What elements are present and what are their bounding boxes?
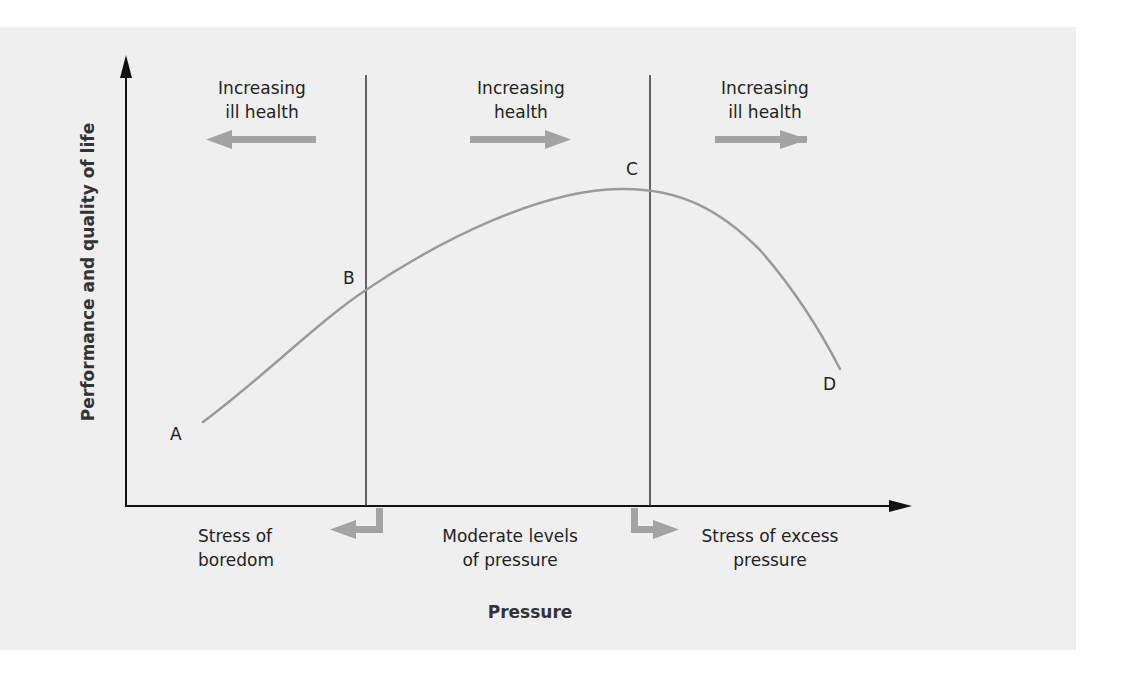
bottom-label-line2: boredom — [198, 548, 298, 572]
point-label-b: B — [343, 268, 355, 288]
arrow-right-health-icon — [470, 130, 571, 149]
bottom-label-line1: Moderate levels — [430, 524, 590, 548]
y-axis-title: Performance and quality of life — [78, 122, 98, 422]
top-label-line1: Increasing — [700, 76, 830, 100]
top-label-boredom-region: Increasing ill health — [196, 76, 328, 124]
bottom-label-line1: Stress of — [198, 524, 298, 548]
bottom-label-excess: Stress of excess pressure — [690, 524, 850, 572]
elbow-arrow-excess-icon — [631, 508, 679, 539]
bottom-label-boredom: Stress of boredom — [198, 524, 298, 572]
top-label-moderate-region: Increasing health — [456, 76, 586, 124]
x-axis-arrowhead-icon — [889, 500, 912, 512]
top-label-line2: ill health — [196, 100, 328, 124]
arrow-left-ill-health-icon — [206, 130, 316, 149]
bottom-label-moderate: Moderate levels of pressure — [430, 524, 590, 572]
top-label-line2: ill health — [700, 100, 830, 124]
point-label-a: A — [170, 424, 182, 444]
arrow-right-ill-health-icon — [715, 130, 808, 149]
point-label-c: C — [626, 159, 638, 179]
performance-curve — [203, 189, 840, 422]
y-axis-arrowhead-icon — [120, 55, 132, 78]
top-label-line1: Increasing — [456, 76, 586, 100]
elbow-arrow-boredom-icon — [330, 508, 383, 539]
top-label-line1: Increasing — [196, 76, 328, 100]
x-axis — [125, 500, 912, 512]
x-axis-title: Pressure — [460, 602, 600, 622]
bottom-label-line1: Stress of excess — [690, 524, 850, 548]
top-label-line2: health — [456, 100, 586, 124]
bottom-label-line2: pressure — [690, 548, 850, 572]
y-axis — [120, 55, 132, 506]
point-label-d: D — [823, 374, 836, 394]
bottom-label-line2: of pressure — [430, 548, 590, 572]
top-label-excess-region: Increasing ill health — [700, 76, 830, 124]
